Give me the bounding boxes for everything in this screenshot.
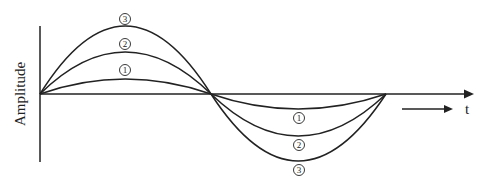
label-2-top: 2 [123, 39, 128, 49]
label-1-top: 1 [123, 65, 128, 75]
x-axis-arrowhead-icon [464, 90, 474, 99]
y-axis-label: Amplitude [12, 62, 28, 127]
direction-arrowhead-icon [444, 105, 453, 113]
x-axis-label: t [465, 101, 470, 117]
label-2-bottom: 2 [297, 140, 302, 150]
diagram-canvas: 3 2 1 1 2 3 Amplitude t [0, 0, 490, 184]
label-3-bottom: 3 [297, 165, 302, 175]
label-3-top: 3 [123, 14, 128, 24]
amplitude-diagram: 3 2 1 1 2 3 Amplitude t [0, 0, 490, 184]
label-1-bottom: 1 [297, 113, 302, 123]
